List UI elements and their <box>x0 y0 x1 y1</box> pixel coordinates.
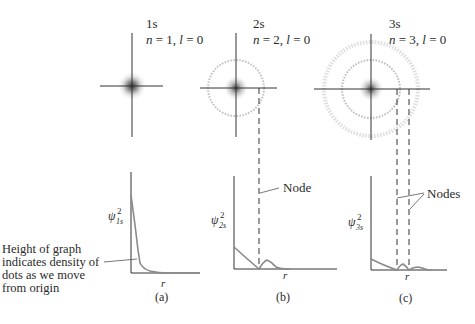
annotation-line-4: from origin <box>2 281 60 295</box>
y-axis-label-2s: ψ <box>211 213 219 227</box>
panel-b: 2s n = 2, l = 0 ψ 2 2s r (b) Node <box>200 16 337 304</box>
annotation-text: Height of graph indicates density of dot… <box>2 242 100 295</box>
annotation-line-2: indicates density of <box>2 255 100 269</box>
x-axis-label-b: r <box>283 269 288 281</box>
density-curve-2s <box>234 247 290 269</box>
y-axis-label-1s: ψ <box>108 209 116 223</box>
node-pointer-c1 <box>397 193 424 198</box>
node-label: Node <box>283 180 311 195</box>
y-axis-label-3s: ψ <box>348 215 356 229</box>
y-axis-sup-2s: 2 <box>220 210 225 220</box>
orbital-figure: 1s n = 1, l = 0 ψ 2 1s r (a) Height of g… <box>0 0 475 324</box>
orbital-label-1s: 1s <box>146 16 158 31</box>
quantum-numbers-1s: n = 1, l = 0 <box>146 32 203 47</box>
x-axis-label-a: r <box>161 277 166 289</box>
annotation-line-1: Height of graph <box>2 242 82 256</box>
y-axis-sub-1s: 1s <box>116 217 123 226</box>
y-axis-sup-1s: 2 <box>117 206 122 216</box>
y-axis-sub-2s: 2s <box>219 221 226 230</box>
caption-b: (b) <box>276 290 290 304</box>
quantum-numbers-3s: n = 3, l = 0 <box>389 32 446 47</box>
annotation-line-3: dots as we move <box>2 268 85 282</box>
node-pointer-b <box>260 188 279 193</box>
node-pointer-c2 <box>410 194 424 209</box>
panel-a: 1s n = 1, l = 0 ψ 2 1s r (a) <box>100 16 203 304</box>
x-axis-label-c: r <box>405 270 410 282</box>
panel-c: 3s n = 3, l = 0 ψ 2 3s r (c) Nodes <box>314 16 460 305</box>
y-axis-sup-3s: 2 <box>357 212 362 222</box>
density-curve-1s <box>131 195 200 273</box>
orbital-label-3s: 3s <box>389 16 401 31</box>
caption-a: (a) <box>155 290 168 304</box>
density-curve-3s <box>371 259 432 270</box>
nodes-label: Nodes <box>427 186 460 201</box>
caption-c: (c) <box>399 291 412 305</box>
annotation-pointer <box>104 259 137 262</box>
orbital-label-2s: 2s <box>253 16 265 31</box>
quantum-numbers-2s: n = 2, l = 0 <box>253 32 310 47</box>
y-axis-sub-3s: 3s <box>355 223 363 232</box>
